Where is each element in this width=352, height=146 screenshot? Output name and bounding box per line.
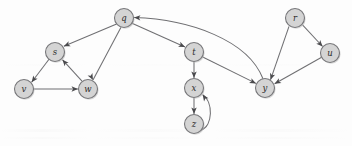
graph-canvas: qsvwtxzyru — [0, 0, 352, 146]
graph-figure: qsvwtxzyru — [0, 0, 352, 146]
node-z[interactable]: z — [185, 115, 205, 135]
node-u[interactable]: u — [321, 44, 341, 64]
node-circle-s[interactable] — [46, 43, 65, 62]
edge-t-to-y — [202, 57, 256, 84]
edge-u-to-y — [275, 58, 322, 84]
node-r[interactable]: r — [286, 9, 306, 29]
node-w[interactable]: w — [79, 80, 99, 100]
node-circle-z[interactable] — [185, 115, 204, 134]
node-circle-y[interactable] — [256, 79, 275, 98]
node-circle-q[interactable] — [115, 9, 134, 28]
node-circle-w[interactable] — [79, 80, 98, 99]
node-x[interactable]: x — [185, 79, 205, 99]
node-y[interactable]: y — [256, 79, 276, 99]
node-circle-u[interactable] — [321, 44, 340, 63]
node-t[interactable]: t — [185, 43, 205, 63]
node-v[interactable]: v — [15, 80, 35, 100]
edge-q-to-w — [93, 27, 121, 80]
edge-q-to-s — [64, 24, 117, 46]
edge-r-to-y — [271, 26, 290, 80]
node-circle-r[interactable] — [286, 9, 305, 28]
node-circle-x[interactable] — [185, 79, 204, 98]
edge-q-to-t — [132, 23, 185, 47]
node-circle-v[interactable] — [15, 80, 34, 99]
edges-layer — [29, 15, 324, 130]
nodes-layer: qsvwtxzyru — [15, 9, 341, 135]
node-circle-t[interactable] — [185, 43, 204, 62]
node-q[interactable]: q — [115, 9, 135, 29]
